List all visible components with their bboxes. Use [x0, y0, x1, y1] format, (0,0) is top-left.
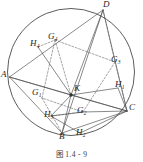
label-G1: G1	[32, 88, 41, 97]
figure-caption: 图 1.4 - 9	[0, 148, 143, 159]
label-C: C	[129, 103, 135, 112]
dash-G3-G2	[83, 62, 115, 112]
segment-H4-K	[38, 47, 71, 95]
point-K-dot	[69, 93, 72, 96]
dash-G4-K	[55, 40, 71, 95]
segment-BC	[62, 111, 127, 133]
geometry-figure: A B C D K G1 G2 G3 G4 H1 H2 H3 H4 图 1.4 …	[0, 0, 143, 162]
label-B: B	[59, 132, 65, 141]
label-H2: H2	[76, 128, 85, 137]
label-G2: G2	[77, 106, 86, 115]
label-H1: H1	[115, 80, 124, 89]
label-G3: G3	[111, 55, 120, 64]
label-D: D	[103, 0, 110, 9]
label-K: K	[74, 84, 80, 93]
label-H3: H3	[44, 110, 53, 119]
geometry-canvas	[0, 0, 143, 146]
label-H4: H4	[30, 39, 39, 48]
label-G4: G4	[48, 32, 57, 41]
label-A: A	[1, 70, 7, 79]
segment-H3-K	[51, 95, 71, 116]
diagonals	[10, 10, 128, 133]
segment-H2-C	[80, 111, 127, 133]
